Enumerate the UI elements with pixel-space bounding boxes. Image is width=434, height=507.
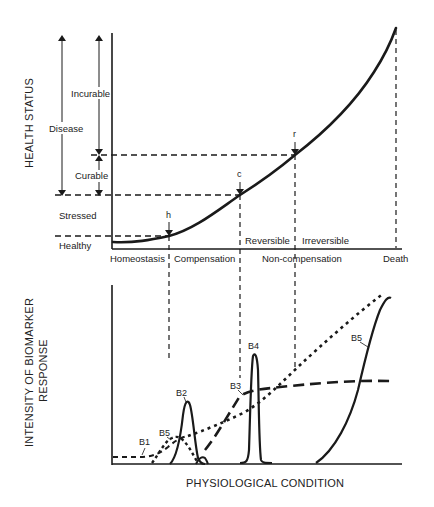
biomarker-b2-label: B2	[176, 388, 187, 398]
biomarker-b5-late-label: B5	[351, 333, 362, 343]
phase-label-homeostasis: Homeostasis	[110, 253, 165, 264]
biomarker-b5-early-label: B5	[159, 428, 170, 438]
bottom-panel: INTENSITY OF BIOMARKER RESPONSE PHYSIOLO…	[23, 285, 402, 489]
phase-label-non-compensation: Non-compensation	[262, 253, 342, 264]
physiological-condition-axis-title: PHYSIOLOGICAL CONDITION	[186, 477, 344, 489]
biomarker-b4-label: B4	[248, 341, 259, 351]
b5-late-leader	[360, 342, 368, 347]
health-status-axis-title: HEALTH STATUS	[23, 78, 35, 168]
biomarker-b2-curve	[170, 402, 205, 464]
biomarker-axis-title-line2: RESPONSE	[37, 339, 49, 402]
b1-leader	[142, 448, 145, 455]
biomarker-b1-label: B1	[139, 437, 150, 447]
phase-label-death: Death	[383, 253, 408, 264]
stressed-label: Stressed	[59, 210, 97, 221]
point-h-label: h	[166, 210, 171, 220]
top-panel: HEALTH STATUS Disease Incurable Curable …	[23, 28, 408, 378]
curable-label: Curable	[75, 170, 108, 181]
biomarker-b4-curve	[240, 354, 272, 463]
biomarker-axis-title-line1: INTENSITY OF BIOMARKER	[23, 298, 35, 447]
healthy-label: Healthy	[59, 240, 91, 251]
health-biomarker-diagram: HEALTH STATUS Disease Incurable Curable …	[0, 0, 434, 507]
point-r-label: r	[293, 129, 296, 139]
incurable-label: Incurable	[71, 88, 110, 99]
reversible-label: Reversible	[245, 235, 290, 246]
biomarker-b3-label: B3	[230, 381, 241, 391]
irreversible-label: Irreversible	[302, 235, 349, 246]
point-c-label: c	[237, 169, 242, 179]
health-status-curve	[113, 28, 396, 242]
biomarker-dotted-rising-curve	[188, 293, 384, 436]
phase-label-compensation: Compensation	[174, 253, 235, 264]
disease-label: Disease	[49, 123, 83, 134]
biomarker-b3-curve	[205, 381, 390, 450]
